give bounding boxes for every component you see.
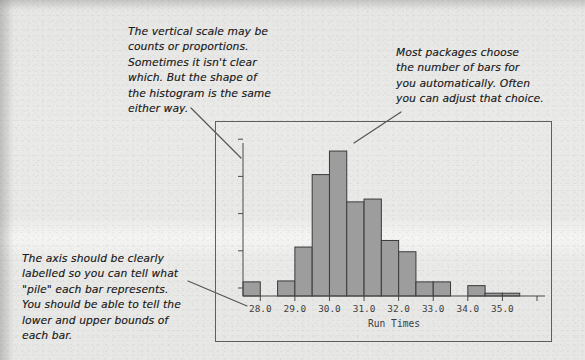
histogram-bar (347, 202, 364, 296)
histogram-bar (278, 281, 295, 296)
annotation-vertical-scale: The vertical scale may be counts or prop… (128, 24, 338, 116)
histogram-bar (433, 282, 450, 296)
histogram-bar (468, 286, 485, 296)
annotation-axis-label: The axis should be clearly labelled so y… (22, 251, 222, 343)
histogram-bar (243, 282, 260, 296)
x-tick-label: 29.0 (284, 303, 307, 314)
x-axis-title: Run Times (368, 318, 420, 329)
bars-group (243, 151, 520, 296)
histogram-bar (399, 252, 416, 296)
histogram-bar (312, 175, 329, 296)
histogram-bar (329, 151, 346, 296)
annotation-bar-count: Most packages choose the number of bars … (396, 45, 585, 107)
x-tick-label: 30.0 (318, 303, 341, 314)
x-tick-label: 31.0 (353, 303, 376, 314)
x-tick-label: 35.0 (491, 303, 514, 314)
x-tick-label: 33.0 (422, 303, 445, 314)
x-tick-label: 28.0 (249, 303, 272, 314)
histogram-chart: 28.029.030.031.032.033.034.035.0 Run Tim… (215, 121, 552, 342)
histogram-bar (381, 240, 398, 296)
histogram-bar (364, 199, 381, 296)
histogram-bar (416, 282, 433, 296)
x-tick-label: 34.0 (457, 303, 480, 314)
x-tick-label: 32.0 (387, 303, 410, 314)
x-tick-labels: 28.029.030.031.032.033.034.035.0 (249, 303, 514, 314)
histogram-bar (295, 247, 312, 296)
